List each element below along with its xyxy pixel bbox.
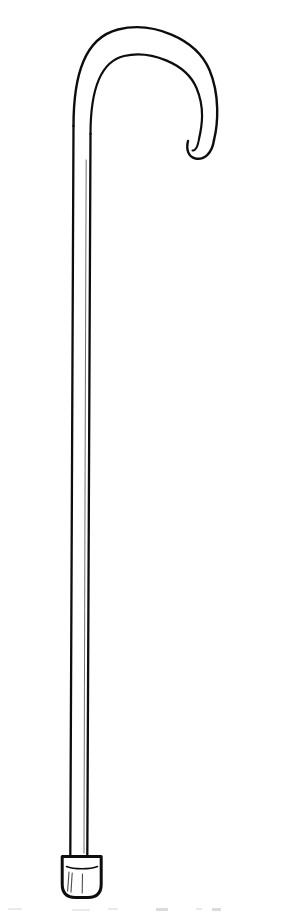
ferrule-group bbox=[62, 857, 101, 898]
bottom-caption-strip bbox=[0, 902, 283, 914]
drawing-canvas: Walking cane line drawing bbox=[0, 0, 283, 914]
walking-cane-illustration: Walking cane line drawing bbox=[0, 0, 283, 914]
page-background bbox=[0, 0, 283, 914]
